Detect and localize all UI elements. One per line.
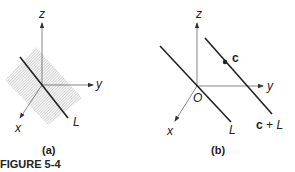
panel-a bbox=[5, 23, 93, 125]
line-L bbox=[160, 46, 231, 122]
panel-b-label: (b) bbox=[211, 145, 225, 156]
z-axis-label-b: z bbox=[196, 8, 202, 20]
panel-a-label: (a) bbox=[42, 145, 55, 156]
z-axis-label-a: z bbox=[39, 8, 45, 20]
origin-label: O bbox=[193, 92, 202, 104]
line-c-plus-L bbox=[205, 38, 272, 114]
c-bold: c bbox=[256, 118, 263, 132]
y-axis-label-b: y bbox=[267, 80, 273, 92]
x-axis-label-a: x bbox=[15, 122, 21, 134]
line-L-label-b: L bbox=[229, 124, 236, 136]
L-italic: L bbox=[276, 118, 283, 132]
figure-caption: FIGURE 5-4 bbox=[0, 159, 61, 170]
translated-line-label: c + L bbox=[256, 119, 283, 131]
point-c bbox=[223, 60, 227, 64]
x-axis-label-b: x bbox=[167, 125, 173, 137]
panel-b bbox=[160, 23, 272, 122]
y-axis-label-a: y bbox=[96, 78, 102, 90]
point-c-label: c bbox=[232, 52, 239, 64]
line-L-label-a: L bbox=[73, 116, 80, 128]
